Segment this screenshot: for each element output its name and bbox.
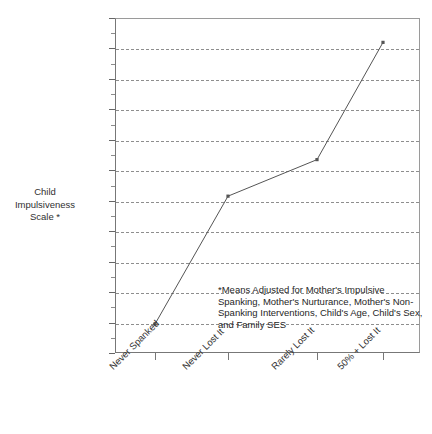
x-tick-2: [317, 353, 318, 360]
gridline-y-60: [116, 49, 419, 50]
y-tick-major-40: [109, 353, 115, 354]
gridline-y-54: [116, 141, 419, 142]
line-chart: Child Impulsiveness Scale * 404244464850…: [0, 0, 432, 434]
footnote-annotation: *Means Adjusted for Mother's Impulsive S…: [218, 284, 426, 330]
gridline-y-48: [116, 232, 419, 233]
gridline-y-52: [116, 171, 419, 172]
gridline-y-58: [116, 80, 419, 81]
x-tick-0: [155, 353, 156, 360]
gridline-y-50: [116, 202, 419, 203]
gridline-y-46: [116, 263, 419, 264]
y-axis-title: Child Impulsiveness Scale *: [2, 186, 88, 224]
x-tick-3: [383, 353, 384, 360]
gridline-y-56: [116, 110, 419, 111]
x-tick-1: [228, 353, 229, 360]
